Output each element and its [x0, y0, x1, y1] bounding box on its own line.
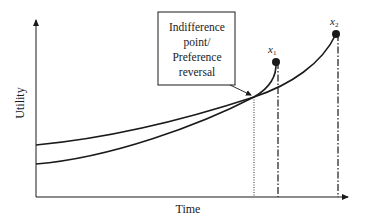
utility-curve-x1: [36, 62, 276, 164]
annotation-line-2: point/: [184, 36, 212, 49]
x-axis-label: Time: [176, 202, 201, 216]
x2-label: x2: [329, 15, 339, 29]
annotation-line-1: Indifference: [169, 21, 225, 33]
annotation-line-3: Preference: [172, 51, 221, 63]
x2-point-marker: [332, 30, 340, 38]
x1-label: x1: [267, 43, 277, 57]
indifference-annotation: Indifference point/ Preference reversal: [158, 12, 251, 95]
y-axis-label: Utility: [13, 87, 27, 118]
annotation-pointer-arrow: [230, 85, 251, 95]
x1-point-marker: [272, 58, 280, 66]
annotation-line-4: reversal: [179, 66, 215, 78]
diagram-canvas: x1 x2 Indifference point/ Preference rev…: [0, 0, 368, 221]
